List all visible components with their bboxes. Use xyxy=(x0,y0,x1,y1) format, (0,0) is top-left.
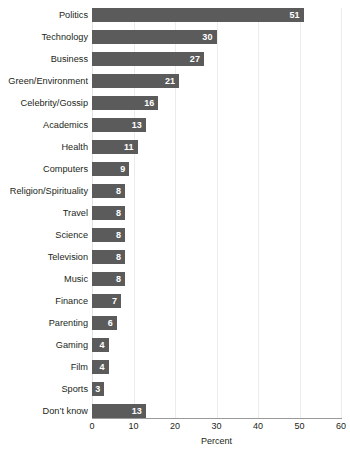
bar-row: 6 xyxy=(92,316,341,330)
x-axis-title: Percent xyxy=(92,436,341,446)
bar-row: 4 xyxy=(92,338,341,352)
category-label: Sports xyxy=(0,382,88,396)
category-label: Green/Environment xyxy=(0,74,88,88)
category-label: Don’t know xyxy=(0,404,88,418)
bar-value-label: 11 xyxy=(124,143,138,152)
gridline-60 xyxy=(341,8,342,418)
bar: 3 xyxy=(92,382,104,396)
category-label: Film xyxy=(0,360,88,374)
category-label: Technology xyxy=(0,30,88,44)
bar-row: 51 xyxy=(92,8,341,22)
bar-value-label: 6 xyxy=(108,319,117,328)
category-label: Music xyxy=(0,272,88,286)
bar-row: 8 xyxy=(92,272,341,286)
bar-value-label: 21 xyxy=(165,77,179,86)
x-tick-label: 30 xyxy=(211,421,221,431)
bar-row: 27 xyxy=(92,52,341,66)
category-label: Computers xyxy=(0,162,88,176)
category-label: Politics xyxy=(0,8,88,22)
bar-row: 13 xyxy=(92,118,341,132)
x-tick-label: 60 xyxy=(336,421,346,431)
category-label: Travel xyxy=(0,206,88,220)
category-label: Finance xyxy=(0,294,88,308)
bar-row: 8 xyxy=(92,206,341,220)
bar-value-label: 51 xyxy=(289,11,303,20)
bar: 7 xyxy=(92,294,121,308)
bar-value-label: 13 xyxy=(132,121,146,130)
bar-value-label: 8 xyxy=(116,253,125,262)
category-labels: PoliticsTechnologyBusinessGreen/Environm… xyxy=(0,8,88,418)
category-label: Health xyxy=(0,140,88,154)
x-tick-label: 50 xyxy=(294,421,304,431)
bar: 13 xyxy=(92,404,146,418)
bar: 13 xyxy=(92,118,146,132)
x-tick-label: 10 xyxy=(128,421,138,431)
category-label: Academics xyxy=(0,118,88,132)
bar: 9 xyxy=(92,162,129,176)
bar-row: 4 xyxy=(92,360,341,374)
bar-value-label: 9 xyxy=(120,165,129,174)
bar-chart: 513027211613119888887644313 PoliticsTech… xyxy=(0,0,350,452)
bar-value-label: 4 xyxy=(99,341,108,350)
bar: 16 xyxy=(92,96,158,110)
bar-value-label: 8 xyxy=(116,209,125,218)
bar: 8 xyxy=(92,272,125,286)
bar-value-label: 8 xyxy=(116,231,125,240)
bar-row: 30 xyxy=(92,30,341,44)
bar-value-label: 30 xyxy=(202,33,216,42)
category-label: Celebrity/Gossip xyxy=(0,96,88,110)
bar: 6 xyxy=(92,316,117,330)
bar-value-label: 4 xyxy=(99,363,108,372)
category-label: Religion/Spirituality xyxy=(0,184,88,198)
bar: 4 xyxy=(92,338,109,352)
bar-value-label: 7 xyxy=(112,297,121,306)
x-tick-label: 20 xyxy=(170,421,180,431)
x-tick-label: 40 xyxy=(253,421,263,431)
bar: 21 xyxy=(92,74,179,88)
bar-row: 16 xyxy=(92,96,341,110)
category-label: Science xyxy=(0,228,88,242)
category-label: Parenting xyxy=(0,316,88,330)
bar: 8 xyxy=(92,228,125,242)
category-label: Business xyxy=(0,52,88,66)
bar-rows: 513027211613119888887644313 xyxy=(92,8,341,418)
bar-row: 8 xyxy=(92,184,341,198)
bar: 11 xyxy=(92,140,138,154)
bar-value-label: 3 xyxy=(95,385,104,394)
bar: 51 xyxy=(92,8,304,22)
bar-row: 7 xyxy=(92,294,341,308)
bar-row: 3 xyxy=(92,382,341,396)
category-label: Television xyxy=(0,250,88,264)
bar-row: 11 xyxy=(92,140,341,154)
bar: 27 xyxy=(92,52,204,66)
bar-value-label: 16 xyxy=(144,99,158,108)
bar-row: 8 xyxy=(92,228,341,242)
x-tick-label: 0 xyxy=(89,421,94,431)
bar: 8 xyxy=(92,206,125,220)
bar: 8 xyxy=(92,184,125,198)
bar-value-label: 8 xyxy=(116,187,125,196)
bar-row: 21 xyxy=(92,74,341,88)
category-label: Gaming xyxy=(0,338,88,352)
plot-area: 513027211613119888887644313 xyxy=(92,8,341,418)
bar: 4 xyxy=(92,360,109,374)
bar-value-label: 27 xyxy=(190,55,204,64)
bar: 30 xyxy=(92,30,217,44)
bar-value-label: 13 xyxy=(132,407,146,416)
x-axis-ticks: 0102030405060 xyxy=(92,421,341,435)
x-axis-line xyxy=(92,418,342,419)
bar-row: 13 xyxy=(92,404,341,418)
bar-row: 8 xyxy=(92,250,341,264)
bar: 8 xyxy=(92,250,125,264)
bar-value-label: 8 xyxy=(116,275,125,284)
bar-row: 9 xyxy=(92,162,341,176)
